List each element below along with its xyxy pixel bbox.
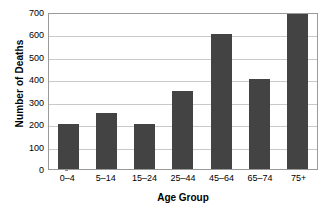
bar <box>96 113 117 169</box>
bar <box>211 34 232 169</box>
x-tick-label: 25–44 <box>164 173 202 184</box>
y-axis-tick-labels: 0100200300400500600700 <box>20 13 44 170</box>
x-tick-label: 0–4 <box>48 173 86 184</box>
bar <box>134 124 155 169</box>
y-tick-label: 600 <box>20 31 44 40</box>
x-tick-label: 45–64 <box>203 173 241 184</box>
plot-area <box>48 13 318 170</box>
bar-chart: Number of Deaths 0100200300400500600700 … <box>0 0 328 212</box>
y-tick-label: 300 <box>20 98 44 107</box>
bar <box>58 124 79 169</box>
y-tick-label: 500 <box>20 53 44 62</box>
bar <box>249 79 270 169</box>
x-tick-label: 15–24 <box>125 173 163 184</box>
y-tick-label: 700 <box>20 9 44 18</box>
x-tick-label: 5–14 <box>87 173 125 184</box>
y-tick-mark <box>65 170 68 171</box>
x-axis-tick-labels: 0–45–1415–2425–4445–6465–7475+ <box>48 173 318 187</box>
x-tick-label: 75+ <box>280 173 318 184</box>
x-axis-title: Age Group <box>48 192 318 203</box>
y-tick-label: 400 <box>20 76 44 85</box>
y-tick-label: 200 <box>20 121 44 130</box>
bar <box>172 91 193 170</box>
y-tick-label: 100 <box>20 143 44 152</box>
bars-group <box>49 14 317 169</box>
y-tick-label: 0 <box>20 166 44 175</box>
bar <box>287 13 308 169</box>
x-tick-label: 65–74 <box>241 173 279 184</box>
